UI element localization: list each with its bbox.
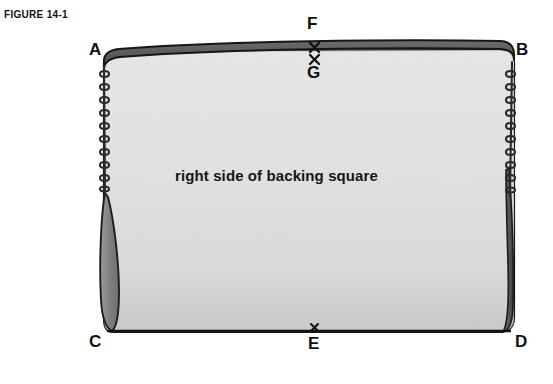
corner-label-d: D [515, 333, 527, 350]
point-label-f: F [307, 15, 317, 32]
fabric-body-texture [104, 50, 514, 332]
fabric-body-group [104, 50, 514, 332]
corner-label-c: C [89, 333, 101, 350]
point-label-e: E [308, 335, 319, 352]
corner-label-b: B [516, 41, 528, 58]
corner-label-a: A [89, 41, 101, 58]
point-label-g: G [307, 64, 320, 81]
backing-square-illustration [0, 0, 553, 384]
figure-caption: right side of backing square [0, 167, 553, 184]
